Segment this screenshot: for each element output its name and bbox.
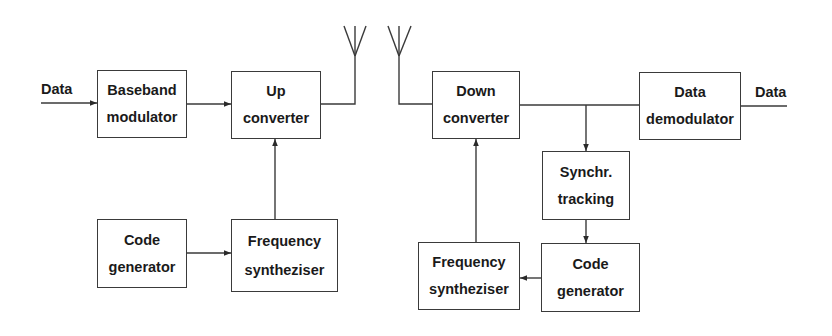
block-label-line: converter	[443, 111, 509, 126]
code-generator-tx-block: Code generator	[97, 219, 187, 288]
baseband-modulator-block: Baseband modulator	[97, 70, 187, 138]
block-label-line: Up	[266, 84, 285, 99]
block-label-line: Baseband	[107, 83, 176, 98]
block-label-line: syntheziser	[245, 263, 325, 278]
up-converter-block: Up converter	[231, 71, 321, 139]
upconverter-to-antenna-wire	[321, 56, 355, 104]
frequency-synthesizer-tx-block: Frequency syntheziser	[231, 219, 338, 292]
block-label-line: syntheziser	[429, 282, 509, 297]
block-label-line: Code	[572, 257, 608, 272]
data-output-label: Data	[755, 84, 786, 100]
block-label-line: Frequency	[432, 255, 505, 270]
data-input-label: Data	[41, 81, 72, 97]
block-label-line: modulator	[107, 110, 178, 125]
block-label-line: Frequency	[248, 234, 321, 249]
data-demodulator-block: Data demodulator	[639, 72, 741, 140]
block-label-line: tracking	[558, 192, 614, 207]
rx-antenna-icon	[388, 26, 411, 56]
down-converter-block: Down converter	[432, 71, 520, 139]
block-label-line: generator	[109, 260, 176, 275]
synchr-tracking-block: Synchr. tracking	[542, 151, 630, 220]
tx-antenna-icon	[344, 26, 366, 56]
block-label-line: Synchr.	[560, 165, 612, 180]
block-label-line: Data	[674, 85, 705, 100]
frequency-synthesizer-rx-block: Frequency syntheziser	[418, 242, 520, 310]
code-generator-rx-block: Code generator	[541, 243, 640, 312]
block-label-line: generator	[557, 284, 624, 299]
block-label-line: converter	[243, 111, 309, 126]
block-label-line: demodulator	[646, 112, 734, 127]
block-label-line: Down	[456, 84, 495, 99]
block-label-line: Code	[124, 233, 160, 248]
antenna-to-downconverter-wire	[399, 56, 432, 104]
